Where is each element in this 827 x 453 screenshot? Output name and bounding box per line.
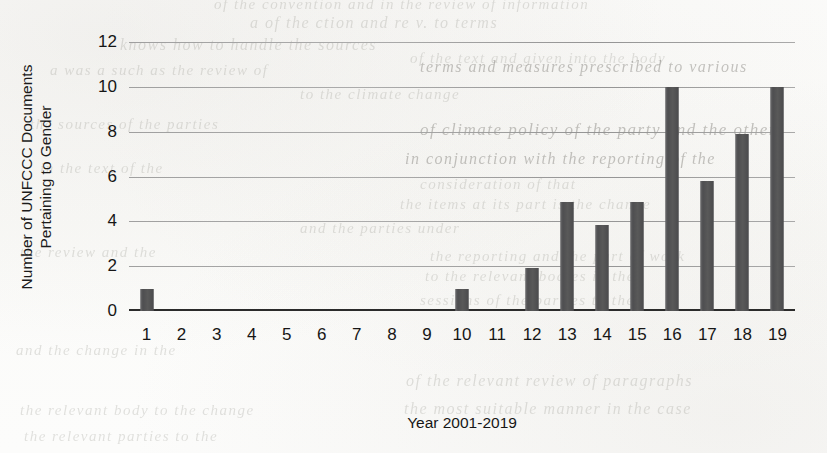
x-axis-tick-label: 13 xyxy=(547,325,587,345)
bar xyxy=(736,134,749,311)
gridline xyxy=(129,42,795,43)
bar xyxy=(140,289,153,311)
x-axis-tick-label: 19 xyxy=(757,325,797,345)
y-axis-tick-label: 10 xyxy=(83,77,117,97)
x-axis-tick-label: 5 xyxy=(267,325,307,345)
bar xyxy=(596,225,609,311)
x-axis-tick-label: 14 xyxy=(582,325,622,345)
bar xyxy=(456,289,469,311)
x-axis-tick-label: 3 xyxy=(197,325,237,345)
x-axis-tick-label: 1 xyxy=(127,325,167,345)
gridline xyxy=(129,87,795,88)
x-axis-tick-label: 18 xyxy=(722,325,762,345)
x-axis-tick-label: 12 xyxy=(512,325,552,345)
gridline xyxy=(129,132,795,133)
bar-chart: Number of UNFCCC Documents Pertaining to… xyxy=(0,0,827,453)
y-axis-tick-label: 6 xyxy=(83,167,117,187)
x-axis-tick-label: 9 xyxy=(407,325,447,345)
bar xyxy=(631,202,644,311)
y-axis-tick-label: 2 xyxy=(83,256,117,276)
y-axis-tick-label: 8 xyxy=(83,122,117,142)
x-axis-tick-label: 17 xyxy=(687,325,727,345)
x-axis-tick-label: 2 xyxy=(162,325,202,345)
gridline xyxy=(129,177,795,178)
x-axis-tick-label: 7 xyxy=(337,325,377,345)
bar xyxy=(561,202,574,311)
y-axis-title-line2: Pertaining to Gender xyxy=(37,105,56,248)
x-axis-tick-label: 4 xyxy=(232,325,272,345)
x-axis-tick-label: 11 xyxy=(477,325,517,345)
gridline xyxy=(129,221,795,222)
gridline xyxy=(129,266,795,267)
x-axis-tick-label: 6 xyxy=(302,325,342,345)
x-axis-tick-label: 10 xyxy=(442,325,482,345)
x-axis-tick-label: 16 xyxy=(652,325,692,345)
x-axis-tick-label: 15 xyxy=(617,325,657,345)
y-axis-tick-label: 4 xyxy=(83,211,117,231)
x-axis-tick-label: 8 xyxy=(372,325,412,345)
y-axis-title: Number of UNFCCC Documents Pertaining to… xyxy=(6,42,68,312)
x-axis-title: Year 2001-2019 xyxy=(129,414,795,432)
plot-area: 02468101212345678910111213141516171819 xyxy=(129,42,795,311)
y-axis-title-line1: Number of UNFCCC Documents xyxy=(18,65,37,290)
bar xyxy=(771,87,784,311)
bar xyxy=(526,268,539,311)
y-axis-tick-label: 0 xyxy=(83,301,117,321)
y-axis-tick-label: 12 xyxy=(83,32,117,52)
bar xyxy=(701,181,714,311)
bar xyxy=(666,87,679,311)
